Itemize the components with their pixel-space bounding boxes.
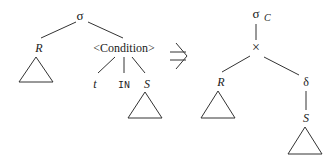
sigma-subscript-c: C [264, 12, 271, 23]
condition-label: <Condition> [93, 41, 155, 55]
right-r-label: R [216, 75, 225, 89]
transform-arrow [170, 43, 187, 69]
edge-sigma-r [41, 22, 76, 38]
query-tree-diagram: σ R <Condition> t IN S σ C × R δ S [0, 0, 333, 168]
left-s-label: S [144, 77, 150, 91]
left-sigma-label: σ [76, 8, 83, 23]
edge-condition-t [98, 57, 115, 73]
left-s-subtree-triangle [128, 92, 162, 118]
right-s-label: S [303, 111, 309, 125]
left-tree: σ R <Condition> t IN S [19, 8, 162, 118]
left-r-label: R [34, 41, 43, 55]
edge-product-r [222, 56, 250, 72]
edge-product-delta [264, 57, 299, 75]
edge-condition-s [132, 57, 145, 73]
right-sigma-label: σ [252, 6, 259, 21]
left-r-subtree-triangle [19, 57, 53, 82]
t-label: t [93, 77, 97, 91]
right-tree: σ C × R δ S [201, 6, 322, 154]
right-r-subtree-triangle [201, 91, 235, 118]
edge-sigma-condition [88, 22, 123, 38]
delta-label: δ [303, 75, 309, 89]
in-keyword: IN [118, 80, 130, 91]
product-symbol: × [252, 40, 260, 55]
right-s-subtree-triangle [288, 127, 322, 154]
